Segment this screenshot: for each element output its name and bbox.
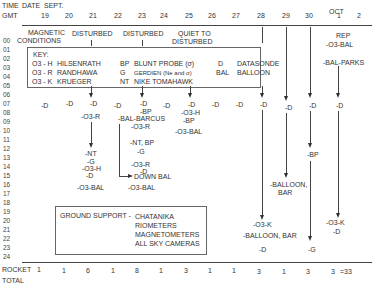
key-title: KEY: (33, 51, 49, 59)
event-d-24: -D (163, 102, 170, 110)
arrow-down-icon (336, 213, 340, 218)
event-o3-r-23: -O3-R (131, 123, 150, 131)
event-o3-k-oct1: -O3-K (326, 219, 345, 227)
arrow-line (262, 110, 263, 216)
arrow-right-icon (128, 174, 133, 178)
ground-support-magnetometers: MAGNETOMETERS (135, 231, 199, 239)
hour-14: 14 (3, 163, 10, 170)
key-name-blunt-probe: BLUNT PROBE (σ) (134, 60, 194, 68)
event-balloon-bar-28: -BALLOON, BAR (243, 232, 297, 240)
key-code-bal: BAL (216, 69, 229, 77)
magnetic-disturbed-1: DISTURBED (72, 30, 112, 38)
hour-12: 12 (3, 145, 10, 152)
event-d-oct1: -D (336, 102, 343, 110)
arrow-line (338, 111, 339, 214)
key-name-balloon: BALLOON (237, 69, 270, 77)
total-oct1: 3 (331, 268, 335, 276)
date-23: 23 (138, 12, 146, 20)
magnetic-quiet-line1: QUIET TO (178, 30, 211, 38)
hour-20: 20 (3, 217, 10, 224)
hour-16: 16 (3, 181, 10, 188)
event-d-21: -D (90, 100, 97, 108)
date-label: DATE (22, 2, 40, 10)
arrow-down-icon (308, 236, 312, 241)
hour-03: 03 (3, 64, 10, 71)
arrow-down-icon (89, 93, 93, 98)
tick-21 (91, 40, 92, 46)
key-code-o3r: O3 - R (32, 69, 53, 77)
magnetic-disturbed-2: DISTURBED (123, 30, 163, 38)
date-30: 30 (305, 12, 313, 20)
date-21: 21 (89, 12, 97, 20)
event-bp-30: -BP (307, 151, 319, 159)
arrow-line (310, 161, 311, 237)
date-24: 24 (160, 12, 168, 20)
arrow-line (338, 66, 339, 94)
date-oct-2: 2 (357, 12, 361, 20)
total-30: 3 (306, 268, 310, 276)
arrow-down-icon (140, 93, 144, 98)
event-nt-bp: -NT, BP (130, 139, 154, 147)
hour-07: 07 (3, 100, 10, 107)
total-25: 3 (184, 267, 188, 275)
total-20: 1 (62, 267, 66, 275)
event-g-23: -G (137, 148, 145, 156)
event-o3-bal-23: -O3-BAL (128, 184, 155, 192)
hour-15: 15 (3, 172, 10, 179)
hour-11: 11 (3, 136, 10, 143)
total-23: 8 (135, 267, 139, 275)
ground-support-all-sky-cameras: ALL SKY CAMERAS (135, 240, 200, 248)
key-name-krueger: KRUEGER (57, 78, 92, 86)
rocket-total-label-line1: ROCKET (2, 266, 31, 274)
magnetic-label-line2: CONDITIONS (17, 37, 61, 45)
magnetic-label-line1: MAGNETIC (28, 29, 65, 37)
arrow-down-icon (260, 215, 264, 220)
gmt-label: GMT (2, 12, 18, 20)
event-o3-r-21: -O3-R (81, 113, 100, 121)
event-o3-bal-25: -O3-BAL (175, 128, 202, 136)
hour-06: 06 (3, 91, 10, 98)
event-o3-k-28: -O3-K (253, 221, 272, 229)
ground-support-riometers: RIOMETERS (135, 222, 177, 230)
key-code-o3h: O3 - H (32, 60, 53, 68)
total-19: 1 (37, 266, 41, 274)
key-name-hilsenrath: HILSENRATH (57, 60, 101, 68)
event-g-30: -G (308, 246, 316, 254)
ground-support-chatanika: CHATANIKA (135, 213, 174, 221)
hour-08: 08 (3, 109, 10, 116)
event-d-25: -D (188, 101, 195, 109)
key-name-datasonde: DATASONDE (237, 60, 280, 68)
magnetic-quiet-line2: DISTURBED (172, 38, 212, 46)
time-label: TIME (2, 2, 19, 10)
date-28: 28 (257, 12, 265, 20)
total-29: 1 (282, 268, 286, 276)
hour-21: 21 (3, 226, 10, 233)
header-rule (22, 25, 372, 26)
hour-01: 01 (3, 46, 10, 53)
date-29: 29 (282, 12, 290, 20)
event-nt-21: -NT (85, 150, 97, 158)
total-sum: =33 (340, 268, 352, 276)
arrow-line (310, 27, 311, 94)
event-d-27: -D (236, 101, 243, 109)
event-d-20: -D (66, 100, 73, 108)
arrow-line (310, 111, 311, 144)
down-bal-line (119, 124, 120, 176)
event-d-29: -D (285, 104, 292, 112)
key-code-bp: BP (120, 60, 129, 68)
key-code-g: G (120, 69, 125, 77)
arrow-down-icon (284, 173, 288, 178)
event-d-19: -D (41, 102, 48, 110)
event-d-22: -D (114, 102, 121, 110)
arrow-line (286, 113, 287, 174)
event-o3-bal-oct1: -O3-BAL (326, 41, 353, 49)
date-20: 20 (65, 12, 73, 20)
total-21: 6 (86, 267, 90, 275)
event-d-28b: -D (259, 246, 266, 254)
event-d-23: -D (140, 100, 147, 108)
hour-13: 13 (3, 154, 10, 161)
date-22: 22 (114, 12, 122, 20)
arrow-down-icon (336, 93, 340, 98)
arrow-line (286, 27, 287, 97)
event-rep: REP (336, 32, 350, 40)
